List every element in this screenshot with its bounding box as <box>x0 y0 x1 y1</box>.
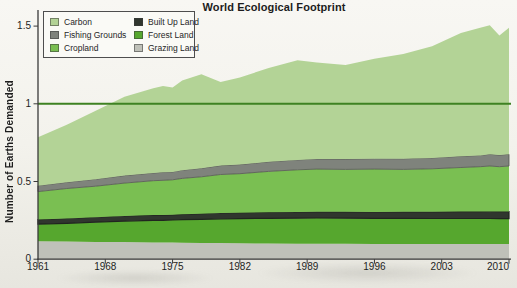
legend-item-cropland: Cropland <box>50 41 134 54</box>
legend-swatch-built-up-land <box>134 18 143 26</box>
y-tick-label-0-5: 0.5 <box>0 176 33 188</box>
legend-swatch-carbon <box>50 18 59 26</box>
legend-swatch-cropland <box>50 44 59 52</box>
x-tick-label-1996: 1996 <box>363 261 385 273</box>
legend: CarbonFishing GroundsCroplandBuilt Up La… <box>43 11 195 58</box>
x-tick-label-1968: 1968 <box>94 261 116 273</box>
legend-item-built-up-land: Built Up Land <box>134 15 190 28</box>
x-tick-label-1975: 1975 <box>161 261 183 273</box>
legend-item-grazing-land: Grazing Land <box>134 41 190 54</box>
x-tick-label-1982: 1982 <box>229 261 251 273</box>
ecological-footprint-chart: World Ecological Footprint Number of Ear… <box>0 0 517 288</box>
legend-item-fishing-grounds: Fishing Grounds <box>50 28 134 41</box>
legend-label-cropland: Cropland <box>64 43 99 53</box>
legend-swatch-forest-land <box>134 31 143 39</box>
legend-label-carbon: Carbon <box>64 17 92 27</box>
x-tick-label-2003: 2003 <box>431 261 453 273</box>
legend-item-forest-land: Forest Land <box>134 28 190 41</box>
y-axis-title: Number of Earths Demanded <box>2 56 16 248</box>
y-tick-label-1-5: 1.5 <box>0 20 33 32</box>
x-tick-label-1989: 1989 <box>296 261 318 273</box>
x-tick-label-2010: 2010 <box>487 261 509 273</box>
legend-swatch-fishing-grounds <box>50 31 59 39</box>
legend-item-carbon: Carbon <box>50 15 134 28</box>
x-tick-label-1961: 1961 <box>27 261 49 273</box>
chart-title: World Ecological Footprint <box>203 1 346 13</box>
legend-swatch-grazing-land <box>134 44 143 52</box>
legend-label-built-up-land: Built Up Land <box>148 17 199 27</box>
legend-label-fishing-grounds: Fishing Grounds <box>64 30 126 40</box>
legend-label-forest-land: Forest Land <box>148 30 193 40</box>
legend-label-grazing-land: Grazing Land <box>148 43 199 53</box>
y-tick-label-1: 1 <box>0 98 33 110</box>
